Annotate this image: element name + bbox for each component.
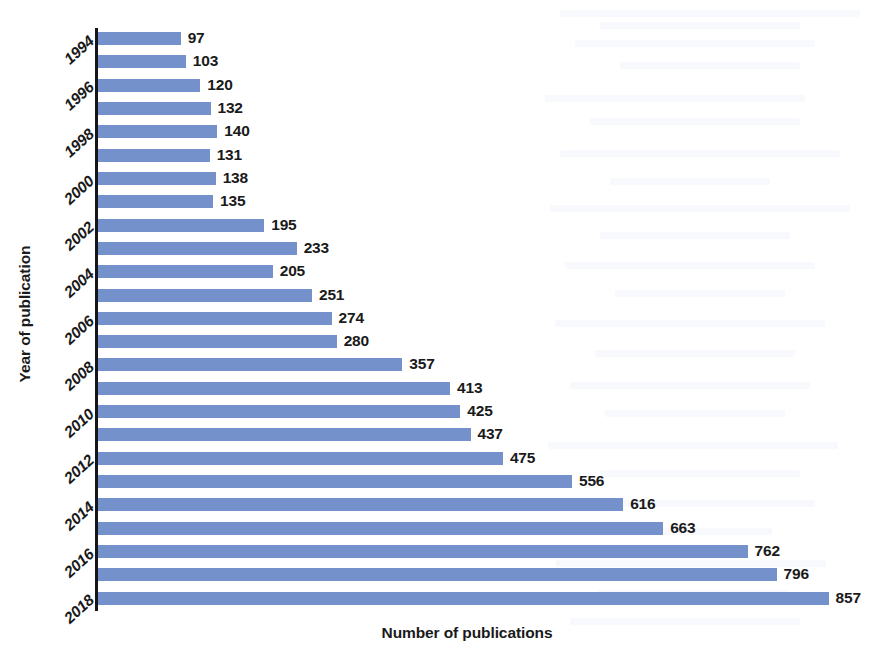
bar-value-label: 274 [339,309,364,327]
year-tick-label: 2008 [61,358,98,394]
bar [98,32,181,45]
bar-value-label: 120 [207,76,232,94]
bar-row: 475 [98,448,871,470]
bar [98,382,450,395]
plot-area: 9710312013214013113813519523320525127428… [98,28,871,611]
bar-row: 857 [98,588,871,610]
bar-row: 205 [98,261,871,283]
bar-value-label: 97 [188,29,205,47]
bar-value-label: 132 [218,99,243,117]
bar-row: 274 [98,308,871,330]
bar-row: 251 [98,285,871,307]
year-tick-label: 1998 [61,125,98,161]
bar [98,242,297,255]
bar [98,102,211,115]
bar-value-label: 556 [579,472,604,490]
bar [98,498,623,511]
bar [98,172,216,185]
bar-value-label: 135 [220,192,245,210]
bar-value-label: 138 [223,169,248,187]
bar [98,289,312,302]
bar [98,522,663,535]
bar [98,149,210,162]
bar-value-label: 663 [670,519,695,537]
bar-value-label: 205 [280,262,305,280]
bar-value-label: 857 [836,589,861,607]
year-tick-label: 1994 [61,32,98,68]
bar [98,592,829,605]
bar [98,79,200,92]
bar-value-label: 140 [224,122,249,140]
year-tick-label: 2018 [61,592,98,628]
bar-row: 120 [98,75,871,97]
bar-value-label: 357 [409,355,434,373]
bar-row: 425 [98,401,871,423]
bar-chart: Year of publication 97103120132140131138… [0,0,871,650]
y-axis-title: Year of publication [16,199,34,429]
bar-row: 138 [98,168,871,190]
year-tick-label: 1996 [61,79,98,115]
bar [98,312,332,325]
bar-row: 663 [98,518,871,540]
bar-row: 132 [98,98,871,120]
bar-value-label: 796 [784,565,809,583]
bar-row: 135 [98,191,871,213]
bar-value-label: 425 [467,402,492,420]
bar-value-label: 280 [344,332,369,350]
year-tick-label: 2010 [61,405,98,441]
bar-value-label: 251 [319,286,344,304]
bar-value-label: 195 [271,216,296,234]
bar-value-label: 131 [217,146,242,164]
bar [98,452,503,465]
bar-row: 195 [98,215,871,237]
bar-row: 357 [98,354,871,376]
bar-value-label: 103 [193,52,218,70]
bar [98,265,273,278]
bar-row: 437 [98,424,871,446]
year-tick-label: 2012 [61,452,98,488]
bar [98,358,402,371]
year-tick-label: 2016 [61,545,98,581]
bar [98,219,264,232]
bar-value-label: 762 [755,542,780,560]
bar [98,195,213,208]
bar-value-label: 437 [478,425,503,443]
bar-row: 233 [98,238,871,260]
bar-row: 103 [98,51,871,73]
bar-row: 131 [98,145,871,167]
bar-row: 413 [98,378,871,400]
bar [98,545,748,558]
bar-value-label: 413 [457,379,482,397]
bar [98,335,337,348]
bar [98,55,186,68]
year-tick-label: 2000 [61,172,98,208]
bar-row: 140 [98,121,871,143]
x-axis-title: Number of publications [97,624,837,642]
bar [98,428,471,441]
bar [98,568,777,581]
year-tick-label: 2014 [61,498,98,534]
bar-row: 97 [98,28,871,50]
bar-row: 556 [98,471,871,493]
year-tick-label: 2006 [61,312,98,348]
year-tick-label: 2004 [61,265,98,301]
year-tick-label: 2002 [61,219,98,255]
bar [98,475,572,488]
bar-value-label: 233 [304,239,329,257]
bar-row: 796 [98,564,871,586]
bar-row: 616 [98,494,871,516]
bar [98,125,217,138]
bar-row: 280 [98,331,871,353]
bar-row: 762 [98,541,871,563]
bar [98,405,460,418]
bar-value-label: 475 [510,449,535,467]
bar-value-label: 616 [630,495,655,513]
